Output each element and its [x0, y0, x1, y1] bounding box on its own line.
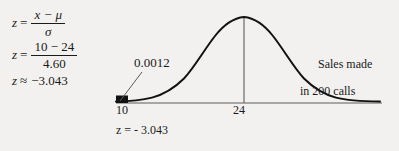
formula-line-1-equals: = — [20, 15, 27, 31]
left-tail-shaded-area — [116, 96, 128, 104]
formula-line-2-lhs: z — [12, 47, 17, 63]
distribution-callout-line-2: in 200 calls — [300, 85, 372, 99]
x-axis-tick-label-24: 24 — [233, 104, 245, 118]
formula-line-3-approx: ≈ — [20, 73, 27, 89]
tail-probability-label: 0.0012 — [134, 56, 170, 71]
formula-line-3-lhs: z — [12, 73, 17, 89]
x-axis-tick-label-10: 10 — [116, 104, 128, 118]
formula-line-1: z = x − μ σ — [12, 8, 112, 38]
formula-line-3-value: −3.043 — [31, 73, 68, 89]
formula-line-2-denominator: 4.60 — [40, 56, 69, 71]
formula-line-1-denominator: σ — [42, 24, 54, 39]
formula-line-2-numerator: 10 − 24 — [31, 40, 77, 55]
formula-line-2-fraction: 10 − 24 4.60 — [31, 40, 77, 70]
formula-line-1-fraction: x − μ σ — [31, 8, 65, 38]
formula-line-3: z ≈ −3.043 — [12, 73, 112, 89]
formula-line-2: z = 10 − 24 4.60 — [12, 40, 112, 70]
distribution-callout-label: Sales made in 200 calls — [300, 44, 372, 127]
z-score-formula-block: z = x − μ σ z = 10 − 24 4.60 z ≈ −3.043 — [12, 8, 112, 90]
z-value-axis-label: z = - 3.043 — [116, 124, 168, 138]
formula-line-1-lhs: z — [12, 15, 17, 31]
formula-line-2-equals: = — [20, 47, 27, 63]
normal-distribution-figure: z = x − μ σ z = 10 − 24 4.60 z ≈ −3.043 — [0, 0, 399, 151]
distribution-callout-line-1: Sales made — [318, 57, 372, 71]
formula-line-1-numerator: x − μ — [31, 8, 65, 23]
bell-curve-chart: 0.0012 10 24 z = - 3.043 Sales made in 2… — [112, 0, 399, 151]
probability-leader-line — [120, 72, 142, 101]
